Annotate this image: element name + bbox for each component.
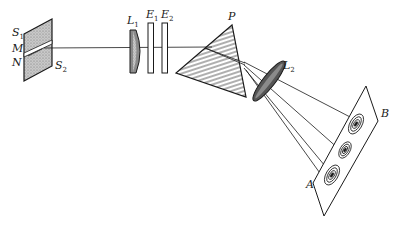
label-l2: L2 bbox=[283, 60, 295, 74]
etalon-e2 bbox=[162, 23, 168, 73]
label-b: B bbox=[381, 108, 389, 119]
label-p: P bbox=[228, 11, 235, 22]
optical-axis bbox=[44, 47, 212, 48]
label-s1: S1 bbox=[12, 27, 24, 41]
etalon-e1 bbox=[148, 23, 154, 73]
label-s2: S2 bbox=[55, 60, 67, 74]
slit-plate bbox=[24, 19, 52, 81]
label-n: N bbox=[12, 57, 22, 68]
label-e2: E2 bbox=[161, 9, 174, 23]
label-e1: E1 bbox=[146, 9, 159, 23]
label-m: M bbox=[12, 43, 23, 54]
label-a: A bbox=[306, 179, 314, 190]
lens-l1 bbox=[130, 30, 140, 73]
optics-diagram bbox=[0, 0, 398, 230]
label-l1: L1 bbox=[127, 15, 139, 29]
